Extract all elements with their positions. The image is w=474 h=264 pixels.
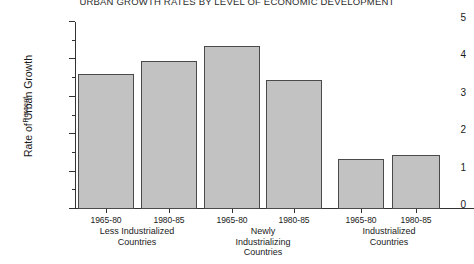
x-group-label-less-industrialized: Less Industrialized Countries (100, 226, 175, 247)
x-label-period-4: 1965-80 (345, 215, 376, 225)
x-label-period-1: 1980-85 (153, 215, 184, 225)
y-axis-units-label: Percent (21, 70, 30, 150)
y-minor-tick-1p5 (72, 152, 75, 153)
bar-industrialized-1980-85 (392, 155, 440, 209)
y-tick-label-2: 2 (446, 124, 466, 135)
group-label-line-1: Industrialized (362, 226, 415, 237)
y-tick-2 (69, 133, 75, 134)
x-label-period-3: 1980-85 (278, 215, 309, 225)
group-label-line-2: Industrializing (235, 237, 290, 248)
y-tick-5 (69, 21, 75, 22)
x-tick-5 (416, 209, 417, 213)
x-label-period-5: 1980-85 (400, 215, 431, 225)
x-tick-4 (361, 209, 362, 213)
y-minor-tick-3p5 (72, 77, 75, 78)
x-group-label-newly-industrializing: Newly Industrializing Countries (235, 226, 290, 258)
y-minor-tick-0p5 (72, 189, 75, 190)
bar-industrialized-1965-80 (338, 159, 384, 210)
y-tick-label-5: 5 (446, 12, 466, 23)
group-label-line-3: Countries (235, 247, 290, 258)
group-label-line-2: Countries (100, 237, 175, 248)
y-tick-label-3: 3 (446, 86, 466, 97)
y-tick-1 (69, 171, 75, 172)
y-tick-label-4: 4 (446, 49, 466, 60)
group-label-line-1: Newly (235, 226, 290, 237)
y-tick-0 (69, 208, 75, 209)
x-group-label-industrialized: Industrialized Countries (362, 226, 415, 247)
y-tick-label-1: 1 (446, 161, 466, 172)
y-axis-line (75, 22, 76, 209)
x-tick-0 (106, 209, 107, 213)
y-tick-4 (69, 58, 75, 59)
bar-less-industrialized-1965-80 (78, 74, 134, 209)
bar-newly-industrializing-1980-85 (266, 80, 322, 209)
group-label-line-1: Less Industrialized (100, 226, 175, 237)
y-tick-3 (69, 96, 75, 97)
group-label-line-2: Countries (362, 237, 415, 248)
x-label-period-2: 1965-80 (216, 215, 247, 225)
chart-title: URBAN GROWTH RATES BY LEVEL OF ECONOMIC … (0, 0, 474, 7)
y-tick-label-0: 0 (446, 199, 466, 210)
x-tick-1 (169, 209, 170, 213)
x-label-period-0: 1965-80 (90, 215, 121, 225)
x-tick-3 (294, 209, 295, 213)
x-tick-2 (232, 209, 233, 213)
bar-newly-industrializing-1965-80 (204, 46, 260, 209)
y-minor-tick-2p5 (72, 115, 75, 116)
y-minor-tick-4p5 (72, 40, 75, 41)
bar-chart: URBAN GROWTH RATES BY LEVEL OF ECONOMIC … (0, 0, 474, 264)
plot-area: 0 1 2 3 4 5 1965-80 1980-85 1965-8 (75, 22, 474, 209)
bar-less-industrialized-1980-85 (141, 61, 197, 209)
